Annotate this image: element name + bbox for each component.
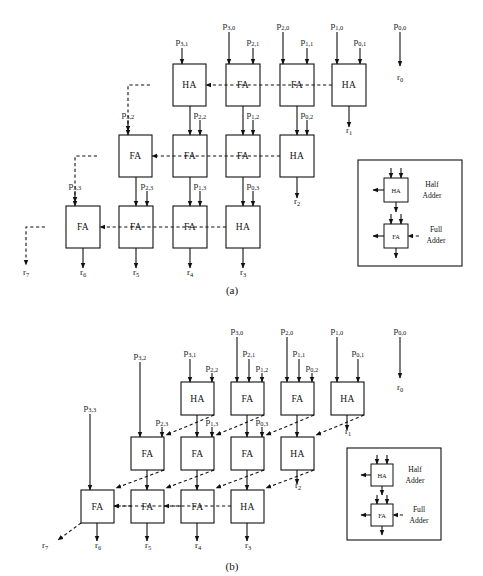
- output-a-r6: r6: [80, 267, 86, 278]
- a-fa-label: FA: [77, 222, 89, 232]
- b-fa-label: FA: [241, 394, 253, 404]
- a-carry-wrap-0: [128, 85, 150, 131]
- input-b-p31: p3,1: [184, 347, 197, 358]
- b-carry-diag-3: [316, 415, 364, 435]
- a-ha-label: HA: [182, 80, 197, 90]
- caption-a: (a): [226, 284, 239, 297]
- input-b-p11: p1,1: [293, 347, 306, 358]
- output-b-r1: r1: [345, 426, 351, 437]
- b-legend-fa-label: FA: [378, 512, 386, 519]
- input-b-p00: p0,0: [394, 325, 407, 336]
- output-a-r4: r4: [187, 267, 194, 278]
- b-fa-label: FA: [91, 502, 103, 512]
- b-fa-label: FA: [241, 449, 253, 459]
- output-b-r6: r6: [95, 540, 101, 551]
- input-a-p10: p1,0: [331, 20, 344, 31]
- input-a-p21: p2,1: [247, 36, 260, 47]
- output-b-r4: r4: [195, 540, 202, 551]
- b-fa-label: FA: [141, 449, 153, 459]
- figure-canvas: HAFAFAHAFAFAFAHAFAFAFAHAp3,1p3,0p2,1p2,0…: [0, 0, 483, 576]
- output-b-r7: r7: [42, 540, 49, 551]
- input-b-p20: p2,0: [281, 325, 294, 336]
- a-ha-label: HA: [290, 151, 305, 161]
- b-carry-diag-6: [216, 470, 264, 488]
- b-legend-panel: [347, 448, 441, 540]
- a-fa-label: FA: [129, 151, 141, 161]
- input-a-p11: p1,1: [301, 36, 314, 47]
- input-a-p01: p0,1: [354, 36, 367, 47]
- b-legend-fa-text1: Full: [413, 505, 425, 514]
- input-a-p23: p2,3: [141, 180, 154, 191]
- output-b-r2: r2: [295, 480, 301, 491]
- b-fa-label: FA: [291, 394, 303, 404]
- b-fa-label: FA: [191, 449, 203, 459]
- a-legend-fa-text2: Adder: [427, 236, 446, 245]
- output-a-r5: r5: [133, 267, 139, 278]
- input-b-p23: p2,3: [156, 416, 169, 427]
- input-a-p31: p3,1: [176, 36, 189, 47]
- b-carry-diag-7: [266, 470, 314, 488]
- adder-array-figure: HAFAFAHAFAFAFAHAFAFAFAHAp3,1p3,0p2,1p2,0…: [0, 0, 483, 576]
- generated-graphics: HAFAFAHAFAFAFAHAFAFAFAHAp3,1p3,0p2,1p2,0…: [23, 20, 462, 573]
- input-b-p22: p2,2: [206, 362, 219, 373]
- b-carry-diag-2: [266, 415, 314, 435]
- input-b-p12: p1,2: [256, 362, 269, 373]
- input-b-p30: p3,0: [231, 325, 244, 336]
- b-legend-ha-label: HA: [377, 472, 387, 479]
- b-ha-label: HA: [190, 394, 205, 404]
- caption-b: (b): [226, 560, 239, 573]
- a-carry-wrap-1: [75, 156, 97, 202]
- b-legend-fa-text2: Adder: [410, 516, 429, 525]
- a-legend-fa-text1: Full: [430, 225, 442, 234]
- b-ha-label: HA: [340, 394, 355, 404]
- a-carry-wrap-2: [26, 227, 45, 265]
- output-a-r0: r0: [397, 72, 403, 83]
- b-carry-diag-4: [116, 470, 164, 488]
- a-legend-fa-label: FA: [392, 233, 400, 240]
- input-a-p13: p1,3: [194, 180, 207, 191]
- input-a-p12: p1,2: [247, 109, 260, 120]
- a-ha-label: HA: [342, 80, 357, 90]
- input-b-p02: p0,2: [306, 362, 319, 373]
- input-a-p30: p3,0: [223, 20, 236, 31]
- a-legend-panel: [358, 160, 462, 266]
- a-legend-ha-text1: Half: [425, 180, 439, 189]
- input-a-p20: p2,0: [277, 20, 290, 31]
- b-ha-label: HA: [290, 449, 305, 459]
- a-legend-ha-label: HA: [391, 187, 401, 194]
- output-b-r0: r0: [397, 382, 403, 393]
- input-a-p00: p0,0: [394, 20, 407, 31]
- a-ha-label: HA: [236, 222, 251, 232]
- output-a-r7: r7: [23, 267, 30, 278]
- output-a-r3: r3: [240, 267, 246, 278]
- input-b-p21: p2,1: [243, 347, 256, 358]
- input-b-p32: p3,2: [134, 350, 147, 361]
- input-a-p02: p0,2: [301, 109, 314, 120]
- output-b-r3: r3: [245, 540, 251, 551]
- input-a-p22: p2,2: [194, 109, 207, 120]
- input-b-p10: p1,0: [331, 325, 344, 336]
- b-carry-out-r7: [58, 523, 81, 540]
- output-b-r5: r5: [145, 540, 151, 551]
- b-legend-ha-text2: Adder: [406, 476, 425, 485]
- b-legend-ha-text1: Half: [408, 465, 422, 474]
- a-legend-ha-text2: Adder: [423, 191, 442, 200]
- b-carry-diag-5: [166, 470, 214, 488]
- input-b-p01: p0,1: [352, 347, 365, 358]
- input-b-p33: p3,3: [84, 402, 97, 413]
- b-ha-label: HA: [240, 502, 255, 512]
- input-a-p03: p0,3: [247, 180, 260, 191]
